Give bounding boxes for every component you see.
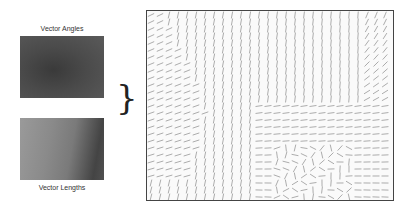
- combine-bracket: }: [116, 80, 138, 114]
- vector-lengths-label: Vector Lengths: [20, 184, 104, 191]
- vector-field-plot: [146, 10, 394, 201]
- vector-field-lines: [147, 11, 393, 200]
- vector-angles-label: Vector Angles: [20, 25, 104, 32]
- vector-lengths-map: [20, 118, 104, 180]
- vector-angles-map: [20, 36, 104, 98]
